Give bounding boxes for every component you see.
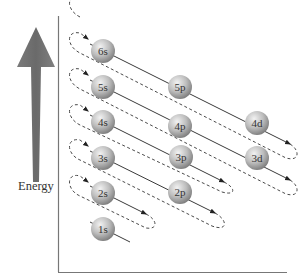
orbital-4d: 4d (245, 111, 269, 135)
orbital-3d: 3d (245, 146, 269, 170)
svg-text:2s: 2s (98, 187, 108, 199)
orbital-2s: 2s (91, 181, 115, 205)
svg-text:3p: 3p (176, 151, 188, 163)
svg-text:6s: 6s (98, 45, 108, 57)
svg-text:1s: 1s (98, 223, 108, 235)
svg-text:5s: 5s (98, 81, 108, 93)
svg-text:5p: 5p (175, 81, 187, 93)
energy-arrow-icon (17, 27, 55, 182)
orbital-5s: 5s (91, 75, 115, 99)
svg-text:3s: 3s (98, 152, 108, 164)
filling-lines (90, 44, 290, 242)
orbital-2p: 2p (168, 180, 192, 204)
energy-axis-label: Energy (18, 179, 54, 194)
orbital-filling-diagram: 1s 2s 2p 3s 3p 3d 4s 4p 4d 5s 5p 6s (0, 0, 301, 280)
orbital-1s: 1s (91, 217, 115, 241)
orbital-4s: 4s (91, 110, 115, 134)
svg-text:4p: 4p (175, 120, 187, 132)
svg-text:3d: 3d (252, 152, 264, 164)
orbital-5p: 5p (168, 75, 192, 99)
orbital-3p: 3p (169, 145, 193, 169)
orbital-6s: 6s (91, 39, 115, 63)
orbital-3s: 3s (91, 146, 115, 170)
svg-text:2p: 2p (175, 186, 187, 198)
orbital-4p: 4p (168, 114, 192, 138)
svg-text:4s: 4s (98, 116, 108, 128)
svg-text:4d: 4d (252, 117, 264, 129)
